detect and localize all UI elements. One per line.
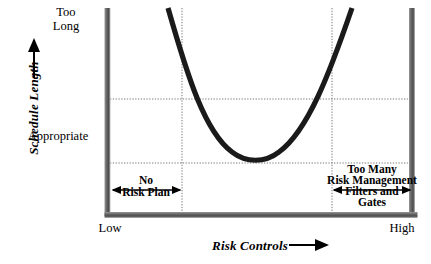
x-tick-label-high: High [378, 222, 426, 236]
x-tick-label-low: Low [78, 222, 142, 236]
y-tick-label-too-long-line2: Long [53, 19, 79, 33]
annotation-no-risk-plan-line2: Risk Plan [108, 186, 184, 198]
y-tick-label-too-long-line1: Too [56, 5, 75, 19]
y-tick-label-too-long: Too Long [30, 6, 102, 33]
annotation-no-risk-plan-line1: No [139, 174, 153, 186]
risk-controls-schedule-length-chart: Schedule Length Risk Controls Too Long A… [0, 0, 431, 264]
x-axis-title: Risk Controls [140, 239, 360, 253]
y-tick-label-appropriate: Appropriate [14, 130, 102, 144]
annotation-too-many-line4: Gates [330, 196, 414, 208]
y-axis-title: Schedule Length [27, 33, 41, 183]
annotation-no-risk-plan: NoRisk Plan [108, 174, 184, 199]
x-axis-bar [105, 212, 418, 218]
